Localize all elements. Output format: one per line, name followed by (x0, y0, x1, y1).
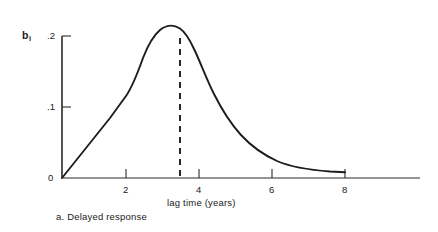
x-tick-label-2: 2 (123, 185, 128, 195)
figure-delayed-response: bi .2 .1 0 2 4 6 8 lag time (years) a. D… (0, 0, 438, 232)
y-tick-label-0: 0 (48, 173, 53, 183)
y-tick-label-0.2: .2 (47, 31, 55, 41)
y-axis-label: bi (22, 30, 31, 41)
x-tick-label-4: 4 (196, 185, 201, 195)
figure-caption: a. Delayed response (56, 212, 147, 222)
x-axis-title: lag time (years) (167, 198, 236, 208)
y-axis-label-subscript: i (29, 34, 31, 43)
x-tick-label-6: 6 (269, 185, 274, 195)
y-tick-label-0.1: .1 (47, 102, 55, 112)
y-axis-label-base: b (22, 29, 28, 41)
x-tick-label-8: 8 (342, 185, 347, 195)
response-curve (62, 25, 345, 178)
